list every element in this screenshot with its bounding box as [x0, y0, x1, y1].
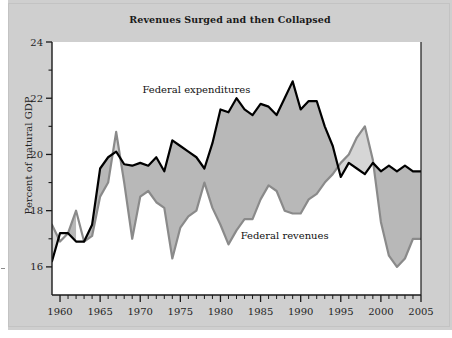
x-tick-label: 1975: [168, 306, 193, 317]
x-tick-label: 2005: [408, 306, 433, 317]
y-tick-label: 22: [30, 93, 43, 104]
x-tick-label: 1980: [208, 306, 233, 317]
x-axis-ticks: 1960196519701975198019851990199520002005: [47, 295, 433, 317]
y-tick-label: 24: [30, 37, 43, 48]
y-tick-label: 18: [30, 205, 43, 216]
y-tick-label: 16: [30, 261, 43, 272]
x-tick-label: 1960: [47, 306, 72, 317]
x-tick-label: 1995: [328, 306, 353, 317]
series-annotation-label: Federal expenditures: [142, 84, 250, 95]
x-tick-label: 2000: [368, 306, 393, 317]
y-tick-label: 20: [30, 149, 43, 160]
chart-plot-area: 1618202224 19601965197019751980198519901…: [0, 0, 452, 338]
series-annotation-label: Federal revenues: [241, 230, 329, 241]
x-tick-label: 1970: [128, 306, 153, 317]
x-tick-label: 1965: [87, 306, 112, 317]
y-axis-ticks: 1618202224: [30, 37, 52, 273]
x-tick-label: 1990: [288, 306, 313, 317]
chart-figure: Revenues Surged and then Collapsed Perce…: [0, 0, 452, 338]
x-tick-label: 1985: [248, 306, 273, 317]
